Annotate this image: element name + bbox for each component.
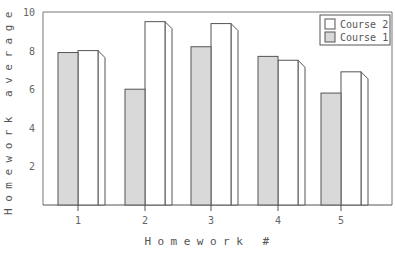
bar-course-1 — [125, 89, 145, 205]
y-tick-label: 10 — [23, 7, 35, 18]
bar-group-3 — [191, 24, 238, 205]
x-tick-label: 4 — [275, 215, 281, 226]
bar-course-2 — [78, 51, 98, 205]
x-tick-label: 1 — [75, 215, 81, 226]
bar-side-course-2 — [298, 60, 305, 205]
x-tick-label: 5 — [338, 215, 344, 226]
y-tick-label: 8 — [29, 46, 35, 57]
x-axis-title: Homework # — [144, 235, 275, 248]
bars — [58, 22, 368, 205]
legend-label: Course 1 — [340, 32, 388, 43]
bar-chart: 246810 12345 Homework # Homework average… — [0, 0, 395, 255]
bar-course-1 — [258, 56, 278, 205]
y-tick-label: 6 — [29, 84, 35, 95]
y-axis: 246810 — [23, 7, 35, 172]
bar-course-1 — [191, 47, 211, 205]
bar-course-2 — [211, 24, 231, 205]
legend: Course 2Course 1 — [320, 15, 390, 45]
bar-group-2 — [125, 22, 172, 205]
y-axis-title: Homework average — [2, 5, 15, 215]
bar-group-4 — [258, 56, 305, 205]
bar-side-course-2 — [98, 51, 105, 205]
y-tick-label: 4 — [29, 123, 35, 134]
bar-course-1 — [58, 53, 78, 205]
x-tick-label: 3 — [208, 215, 214, 226]
bar-course-2 — [278, 60, 298, 205]
bar-side-course-2 — [165, 22, 172, 205]
y-tick-label: 2 — [29, 161, 35, 172]
legend-label: Course 2 — [340, 19, 388, 30]
bar-course-1 — [321, 93, 341, 205]
bar-group-1 — [58, 51, 105, 205]
bar-side-course-2 — [231, 24, 238, 205]
bar-course-2 — [341, 72, 361, 205]
bar-course-2 — [145, 22, 165, 205]
legend-swatch — [325, 19, 335, 29]
bar-group-5 — [321, 72, 368, 205]
x-axis: 12345 — [75, 205, 344, 226]
bar-side-course-2 — [361, 72, 368, 205]
x-tick-label: 2 — [142, 215, 148, 226]
legend-swatch — [325, 32, 335, 42]
